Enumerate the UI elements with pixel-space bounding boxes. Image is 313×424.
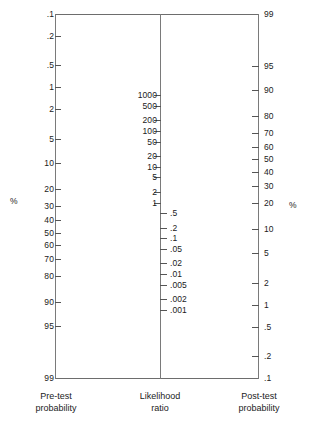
axis-tick [55,302,61,303]
likelihood-ratio-tick-label: .05 [170,245,182,254]
posttest-tick-label: 70 [264,129,274,138]
likelihood-ratio-tick-label: 1000 [138,91,157,100]
pretest-tick-label: 80 [44,272,54,281]
pretest-axis-line [55,14,56,379]
likelihood-ratio-tick-label: 5 [152,173,157,182]
posttest-tick-label: 99 [264,10,274,19]
likelihood-ratio-caption: Likelihood ratio [112,391,208,414]
axis-tick [55,326,61,327]
posttest-tick-label: .1 [264,374,271,383]
likelihood-ratio-tick-label: 100 [143,127,157,136]
axis-tick [160,310,167,311]
likelihood-ratio-tick-label: .2 [170,224,177,233]
pretest-caption: Pre-test probability [8,391,104,414]
posttest-tick-label: 60 [264,143,274,152]
pretest-tick-label: 20 [44,185,54,194]
axis-tick [252,133,259,134]
axis-tick [252,253,259,254]
axis-tick [55,233,61,234]
pretest-tick-label: 70 [44,255,54,264]
likelihood-ratio-tick-label: .005 [170,281,187,290]
likelihood-ratio-tick-label: 20 [147,152,157,161]
pretest-tick-label: 2 [49,105,54,114]
pretest-tick-label: 95 [44,322,54,331]
pretest-tick-label: .1 [47,10,54,19]
fagan-nomogram: .1.2.51251020304050607080909599 10005002… [0,0,313,424]
axis-tick [160,274,167,275]
axis-tick [55,163,61,164]
pretest-tick-label: 60 [44,241,54,250]
axis-tick [55,259,61,260]
axis-tick [55,65,61,66]
pretest-tick-label: 5 [49,135,54,144]
axis-tick [252,116,259,117]
axis-tick [55,220,61,221]
axis-tick [160,213,167,214]
axis-tick [252,159,259,160]
axis-tick [252,203,259,204]
axis-tick [55,109,61,110]
posttest-tick-label: .5 [264,323,271,332]
posttest-tick-label: 90 [264,86,274,95]
axis-tick [55,87,61,88]
axis-tick [160,299,167,300]
top-connector-line [55,14,259,15]
pretest-tick-label: 30 [44,202,54,211]
pretest-tick-label: .5 [47,61,54,70]
axis-tick [252,66,259,67]
pretest-tick-label: 10 [44,159,54,168]
axis-tick [252,186,259,187]
axis-tick [252,172,259,173]
posttest-tick-label: 40 [264,168,274,177]
posttest-tick-label: .2 [264,352,271,361]
pretest-tick-label: 50 [44,229,54,238]
pretest-unit-label: % [10,197,18,206]
likelihood-ratio-tick-label: 2 [152,188,157,197]
posttest-tick-label: 50 [264,155,274,164]
likelihood-ratio-tick-label: 1 [152,199,157,208]
likelihood-ratio-tick-label: .02 [170,259,182,268]
pretest-tick-label: 99 [44,374,54,383]
pretest-tick-label: 90 [44,298,54,307]
axis-tick [160,249,167,250]
posttest-tick-label: 95 [264,62,274,71]
posttest-tick-label: 30 [264,182,274,191]
axis-tick [252,283,259,284]
axis-tick [55,206,61,207]
likelihood-ratio-tick-label: 200 [143,116,157,125]
likelihood-ratio-tick-label: 500 [143,102,157,111]
posttest-tick-label: 2 [264,279,269,288]
axis-tick [252,229,259,230]
posttest-caption: Post-test probability [211,391,307,414]
axis-tick [55,276,61,277]
posttest-axis-line [258,14,259,379]
likelihood-ratio-tick-label: .002 [170,295,187,304]
likelihood-ratio-tick-label: 10 [147,163,157,172]
axis-tick [252,356,259,357]
axis-tick [55,36,61,37]
posttest-tick-label: 20 [264,199,274,208]
axis-tick [160,263,167,264]
axis-tick [252,327,259,328]
posttest-tick-label: 10 [264,225,274,234]
axis-tick [55,139,61,140]
posttest-unit-label: % [289,201,297,210]
likelihood-ratio-axis-line [160,14,161,379]
pretest-tick-label: .2 [47,32,54,41]
likelihood-ratio-tick-label: .5 [170,209,177,218]
posttest-tick-label: 80 [264,112,274,121]
likelihood-ratio-tick-label: .1 [170,234,177,243]
pretest-tick-label: 1 [49,83,54,92]
axis-tick [252,90,259,91]
axis-tick [252,147,259,148]
axis-tick [160,238,167,239]
axis-tick [160,228,167,229]
pretest-tick-label: 40 [44,216,54,225]
likelihood-ratio-tick-label: 50 [147,138,157,147]
likelihood-ratio-tick-label: .01 [170,270,182,279]
axis-tick [252,305,259,306]
posttest-tick-label: 5 [264,249,269,258]
bottom-connector-line [55,378,259,379]
posttest-tick-label: 1 [264,301,269,310]
axis-tick [160,285,167,286]
